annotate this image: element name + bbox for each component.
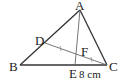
label-d: D xyxy=(35,33,44,48)
label-b: B xyxy=(9,59,18,74)
label-c: C xyxy=(109,59,118,74)
tick-mark-fc xyxy=(91,57,92,62)
label-e: E xyxy=(69,66,77,81)
triangle-diagram: A B C D E F 8 cm xyxy=(0,0,125,84)
segment-ae xyxy=(75,10,80,65)
label-a: A xyxy=(75,0,85,13)
tick-mark-df xyxy=(60,46,61,51)
label-f: F xyxy=(81,44,88,59)
measurement-label: 8 cm xyxy=(79,68,101,80)
segment-ab xyxy=(20,10,80,65)
